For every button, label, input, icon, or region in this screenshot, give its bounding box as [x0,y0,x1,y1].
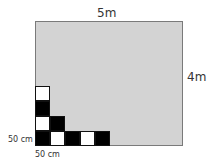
tile-white [35,86,50,101]
tile-black [35,131,50,146]
tile-black [65,131,80,146]
tile-black [95,131,110,146]
tile-width-label: 50 cm [35,150,60,159]
tile-black [50,116,65,131]
tile-white [35,116,50,131]
tile-white [50,131,65,146]
tile-white [80,131,95,146]
tile-height-label: 50 cm [8,135,33,144]
tile-black [35,101,50,116]
height-label: 4m [187,70,206,84]
width-label: 5m [97,6,116,20]
